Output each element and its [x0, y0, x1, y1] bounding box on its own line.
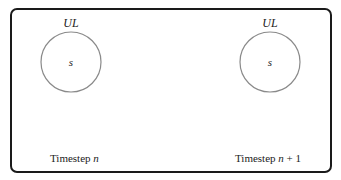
panel-timestep-n-plus-1: UL s Timestep n + 1	[235, 16, 301, 164]
state-label-s: s	[268, 56, 272, 68]
timestep-label: Timestep n	[50, 152, 99, 164]
timestep-suffix: + 1	[284, 152, 301, 164]
timestep-prefix: Timestep	[50, 152, 93, 164]
timestep-var: n	[93, 152, 99, 164]
set-label-ul: UL	[262, 16, 278, 30]
state-label-s: s	[69, 56, 73, 68]
timestep-label: Timestep n + 1	[235, 152, 301, 164]
set-label-ul: UL	[63, 16, 79, 30]
timestep-prefix: Timestep	[235, 152, 278, 164]
panel-timestep-n: UL s Timestep n	[41, 16, 101, 164]
diagram-canvas: UL s Timestep n UL s Timestep n + 1	[0, 0, 341, 180]
diagram-frame	[11, 9, 331, 172]
